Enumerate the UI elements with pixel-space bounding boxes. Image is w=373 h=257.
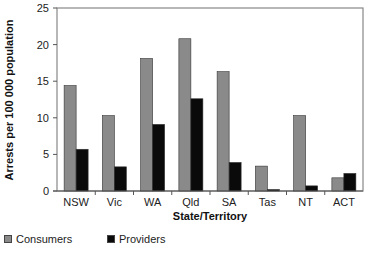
legend: Consumers Providers <box>4 233 165 245</box>
y-tick-label: 0 <box>43 185 49 197</box>
bar-providers-nt <box>306 186 318 191</box>
bar-providers-vic <box>114 167 126 191</box>
bar-consumers-wa <box>141 59 153 191</box>
bar-consumers-act <box>332 178 344 191</box>
x-tick-label: Vic <box>107 196 123 208</box>
plot-area <box>57 8 363 191</box>
bar-providers-act <box>344 173 356 191</box>
legend-label-consumers: Consumers <box>16 233 72 245</box>
x-tick-label: Qld <box>182 196 199 208</box>
bar-consumers-tas <box>255 166 267 191</box>
providers-swatch-icon <box>107 235 115 243</box>
x-tick-label: NT <box>298 196 313 208</box>
bar-consumers-qld <box>179 39 191 191</box>
legend-item-consumers: Consumers <box>4 233 107 245</box>
bar-consumers-nsw <box>64 86 76 191</box>
bar-providers-sa <box>229 162 241 191</box>
bar-providers-qld <box>191 99 203 191</box>
y-axis-title: Arrests per 100 000 population <box>3 19 15 180</box>
x-axis: NSWVicWAQldSATasNTACT <box>53 191 363 208</box>
bar-consumers-sa <box>217 72 229 191</box>
y-tick-label: 15 <box>37 75 49 87</box>
consumers-swatch-icon <box>4 235 12 243</box>
y-tick-label: 10 <box>37 112 49 124</box>
bar-providers-nsw <box>76 149 88 191</box>
x-tick-label: NSW <box>63 196 89 208</box>
bar-chart: 0510152025 NSWVicWAQldSATasNTACT Arrests… <box>0 0 373 257</box>
x-tick-label: WA <box>144 196 162 208</box>
y-tick-label: 20 <box>37 39 49 51</box>
y-axis: 0510152025 <box>37 2 57 197</box>
bar-consumers-nt <box>294 116 306 191</box>
x-tick-label: Tas <box>259 196 277 208</box>
bar-providers-wa <box>153 124 165 191</box>
legend-item-providers: Providers <box>107 233 165 245</box>
legend-label-providers: Providers <box>119 233 165 245</box>
y-tick-label: 5 <box>43 148 49 160</box>
x-axis-title: State/Territory <box>173 210 248 222</box>
x-tick-label: SA <box>222 196 237 208</box>
x-tick-label: ACT <box>333 196 355 208</box>
y-tick-label: 25 <box>37 2 49 14</box>
bar-consumers-vic <box>102 116 114 191</box>
